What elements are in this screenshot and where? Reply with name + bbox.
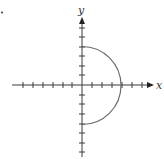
graph-figure: x y [0, 0, 164, 159]
y-axis-arrow-icon [79, 17, 85, 24]
y-axis: y [77, 4, 85, 157]
y-axis-label: y [77, 4, 85, 17]
bullet-dot [1, 12, 3, 14]
x-axis: x [12, 79, 163, 92]
x-axis-label: x [156, 79, 163, 92]
x-axis-arrow-icon [147, 82, 154, 88]
